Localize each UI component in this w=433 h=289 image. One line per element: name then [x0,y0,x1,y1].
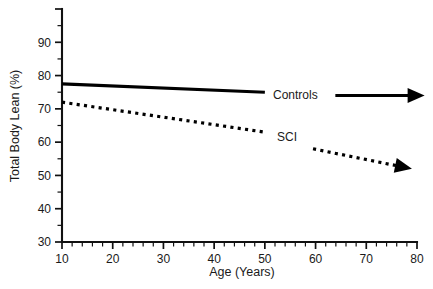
x-tick-label: 50 [258,252,272,266]
x-tick-label: 20 [106,252,120,266]
x-axis-title: Age (Years) [209,265,275,279]
y-axis-title: Total Body Lean (%) [8,70,22,183]
trend-arrows-group [313,88,425,173]
data-series-group [62,84,265,132]
series-line-sci [62,102,265,132]
y-axis-tick-labels: 30405060708090 [38,36,52,250]
x-tick-label: 80 [410,252,424,266]
y-tick-label: 30 [38,235,52,249]
y-tick-label: 50 [38,169,52,183]
x-axis-tick-labels: 1020304050607080 [55,252,424,266]
y-tick-label: 90 [38,36,52,50]
y-tick-label: 40 [38,202,52,216]
sci-trend-arrow-head [394,158,412,173]
series-line-controls [62,84,265,92]
x-tick-label: 60 [309,252,323,266]
y-tick-label: 70 [38,102,52,116]
series-label-controls: Controls [273,88,318,102]
y-tick-label: 80 [38,69,52,83]
y-tick-label: 60 [38,135,52,149]
chart-plot-area: 30405060708090 1020304050607080 Controls… [0,0,433,289]
x-tick-label: 10 [55,252,69,266]
chart-figure: 30405060708090 1020304050607080 Controls… [0,0,433,289]
axes-group [62,9,417,242]
x-tick-label: 70 [360,252,374,266]
sci-trend-arrow-shaft [313,149,398,166]
x-tick-label: 30 [157,252,171,266]
controls-trend-arrow-head [408,88,425,103]
x-tick-label: 40 [207,252,221,266]
series-label-sci: SCI [277,130,297,144]
